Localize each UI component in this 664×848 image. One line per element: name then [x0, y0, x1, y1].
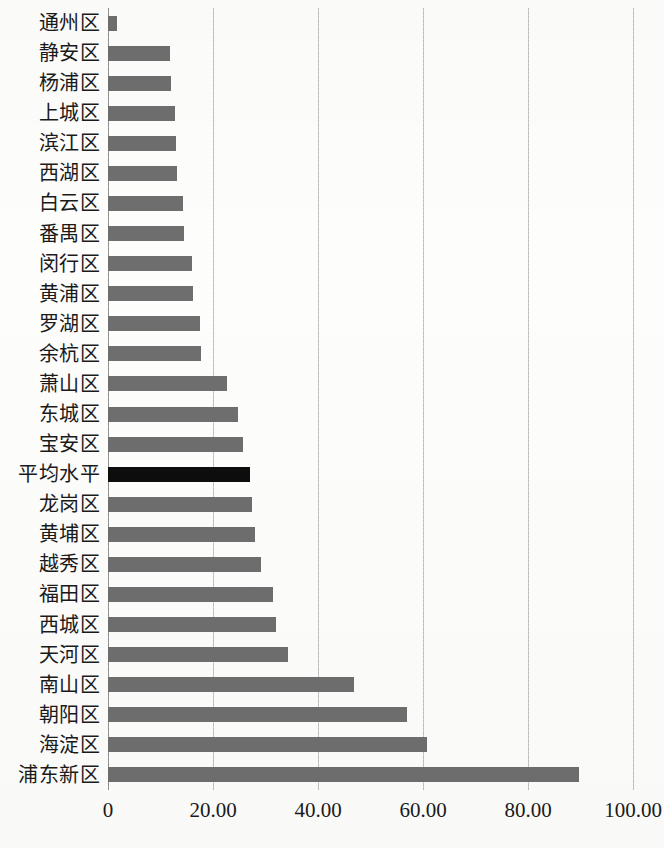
bar [108, 407, 238, 422]
bar-row: 平均水平 [108, 459, 633, 489]
bar-row: 西城区 [108, 610, 633, 640]
category-label: 上城区 [39, 98, 101, 128]
bar [108, 647, 288, 662]
bar-row: 白云区 [108, 188, 633, 218]
bar [108, 437, 243, 452]
bar [108, 527, 255, 542]
x-tick-label: 20.00 [189, 798, 236, 823]
category-label: 东城区 [39, 399, 101, 429]
bar-row: 福田区 [108, 579, 633, 609]
bar-row: 越秀区 [108, 549, 633, 579]
category-label: 越秀区 [39, 549, 101, 579]
bar-row: 番禺区 [108, 219, 633, 249]
bar-row: 宝安区 [108, 429, 633, 459]
bar [108, 106, 175, 121]
category-label: 余杭区 [39, 339, 101, 369]
bar-row: 罗湖区 [108, 309, 633, 339]
category-label: 罗湖区 [39, 309, 101, 339]
bar-row: 黄埔区 [108, 519, 633, 549]
category-label: 福田区 [39, 579, 101, 609]
category-label: 平均水平 [18, 459, 100, 489]
category-label: 通州区 [39, 8, 101, 38]
bar-row: 杨浦区 [108, 68, 633, 98]
bar [108, 557, 261, 572]
x-tick-label: 80.00 [504, 798, 551, 823]
bar [108, 226, 184, 241]
category-label: 萧山区 [39, 369, 101, 399]
bar [108, 346, 201, 361]
bar-row: 余杭区 [108, 339, 633, 369]
bar-row: 东城区 [108, 399, 633, 429]
category-label: 浦东新区 [18, 760, 100, 790]
bar-row: 黄浦区 [108, 279, 633, 309]
bar-row: 闵行区 [108, 249, 633, 279]
bar-row: 西湖区 [108, 158, 633, 188]
bar [108, 286, 193, 301]
bar-row: 浦东新区 [108, 760, 633, 790]
gridline-100 [633, 8, 634, 790]
x-tick-label: 100.00 [604, 798, 662, 823]
category-label: 番禺区 [39, 219, 101, 249]
bar-row: 朝阳区 [108, 700, 633, 730]
bar [108, 737, 427, 752]
bar [108, 376, 227, 391]
bar [108, 707, 407, 722]
bar-row: 天河区 [108, 640, 633, 670]
category-label: 宝安区 [39, 429, 101, 459]
x-axis: 020.0040.0060.0080.00100.00 [0, 798, 664, 838]
category-label: 南山区 [39, 670, 101, 700]
bar [108, 46, 170, 61]
category-label: 黄埔区 [39, 519, 101, 549]
category-label: 西湖区 [39, 158, 101, 188]
category-label: 西城区 [39, 610, 101, 640]
x-tick-label: 40.00 [294, 798, 341, 823]
bar [108, 136, 176, 151]
category-label: 滨江区 [39, 128, 101, 158]
category-label: 天河区 [39, 640, 101, 670]
bar-row: 南山区 [108, 670, 633, 700]
category-label: 朝阳区 [39, 700, 101, 730]
bar-row: 上城区 [108, 98, 633, 128]
bar [108, 587, 273, 602]
x-tick-label: 0 [103, 798, 114, 823]
bar [108, 677, 354, 692]
bar-row: 海淀区 [108, 730, 633, 760]
bar-row: 龙岗区 [108, 489, 633, 519]
category-label: 海淀区 [39, 730, 101, 760]
category-label: 闵行区 [39, 249, 101, 279]
bar-row: 萧山区 [108, 369, 633, 399]
bar [108, 196, 183, 211]
bar [108, 256, 192, 271]
bar-chart: 通州区静安区杨浦区上城区滨江区西湖区白云区番禺区闵行区黄浦区罗湖区余杭区萧山区东… [0, 0, 664, 848]
category-label: 杨浦区 [39, 68, 101, 98]
bar [108, 76, 171, 91]
bar [108, 617, 276, 632]
category-label: 静安区 [39, 38, 101, 68]
bar-row: 静安区 [108, 38, 633, 68]
bar-row: 滨江区 [108, 128, 633, 158]
bar-highlight [108, 467, 250, 482]
category-label: 白云区 [39, 188, 101, 218]
bar-row: 通州区 [108, 8, 633, 38]
x-tick-label: 60.00 [399, 798, 446, 823]
category-label: 龙岗区 [39, 489, 101, 519]
plot-area: 通州区静安区杨浦区上城区滨江区西湖区白云区番禺区闵行区黄浦区罗湖区余杭区萧山区东… [108, 8, 633, 790]
bar [108, 497, 252, 512]
bar [108, 767, 579, 782]
bar [108, 16, 117, 31]
bar [108, 316, 200, 331]
category-label: 黄浦区 [39, 279, 101, 309]
bar [108, 166, 177, 181]
